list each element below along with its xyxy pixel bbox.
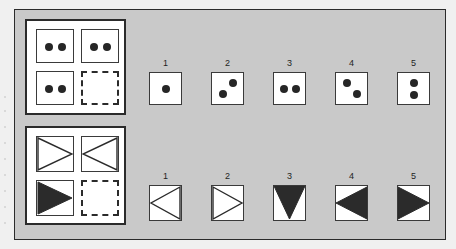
scan-speck: [4, 190, 6, 192]
dot-matrix-stimulus: [25, 19, 126, 115]
option-label-4: 4: [335, 58, 368, 68]
matrix-cell-bottom-right-missing: [81, 71, 119, 105]
dot-option-2[interactable]: [211, 72, 244, 105]
dot-glyph: [410, 79, 418, 87]
triangle-option-4[interactable]: [335, 185, 368, 221]
triangle-left-outline-icon: [150, 186, 181, 220]
scan-speck: [4, 126, 6, 128]
triangle-right-filled-icon: [37, 181, 73, 215]
scan-speck: [4, 142, 6, 144]
matrix-cell-bottom-right-missing: [81, 180, 119, 216]
option-label-3: 3: [273, 58, 306, 68]
dot-glyph: [410, 91, 418, 99]
matrix-cell-top-right: [81, 29, 119, 63]
matrix-cell-top-left: [36, 136, 74, 172]
option-label-2: 2: [211, 171, 244, 181]
scan-speck: [4, 96, 6, 98]
matrix-cell-top-left: [36, 29, 74, 63]
problem-panel: 1 2 3 4 5: [14, 9, 446, 240]
triangle-right-outline-icon: [37, 137, 73, 171]
scan-speck: [4, 222, 6, 224]
dot-option-4[interactable]: [335, 72, 368, 105]
scan-speck: [4, 158, 6, 160]
dot-glyph: [45, 43, 53, 51]
dot-glyph: [353, 90, 361, 98]
dot-glyph: [103, 43, 111, 51]
scan-speck: [4, 206, 6, 208]
matrix-cell-bottom-left: [36, 180, 74, 216]
dot-glyph: [58, 43, 66, 51]
dot-glyph: [162, 85, 170, 93]
option-label-5: 5: [397, 58, 430, 68]
option-label-4: 4: [335, 171, 368, 181]
triangle-option-2[interactable]: [211, 185, 244, 221]
dot-glyph: [219, 90, 227, 98]
option-label-3: 3: [273, 171, 306, 181]
option-label-1: 1: [149, 171, 182, 181]
triangle-down-filled-icon: [274, 186, 305, 220]
matrix-cell-top-right: [81, 136, 119, 172]
dot-glyph: [343, 79, 351, 87]
scan-speck: [4, 174, 6, 176]
dot-option-1[interactable]: [149, 72, 182, 105]
scan-speck: [4, 110, 6, 112]
triangle-option-3[interactable]: [273, 185, 306, 221]
dot-glyph: [45, 85, 53, 93]
dot-glyph: [292, 85, 300, 93]
triangle-left-filled-icon: [336, 186, 367, 220]
page-canvas: 1 2 3 4 5: [0, 0, 456, 249]
option-label-1: 1: [149, 58, 182, 68]
dot-glyph: [229, 79, 237, 87]
triangle-option-1[interactable]: [149, 185, 182, 221]
triangle-right-filled-icon: [398, 186, 429, 220]
dot-glyph: [90, 43, 98, 51]
triangle-left-outline-icon: [82, 137, 118, 171]
matrix-cell-bottom-left: [36, 71, 74, 105]
triangle-right-outline-icon: [212, 186, 243, 220]
option-label-2: 2: [211, 58, 244, 68]
triangle-option-5[interactable]: [397, 185, 430, 221]
dot-option-3[interactable]: [273, 72, 306, 105]
dot-glyph: [58, 85, 66, 93]
dot-option-5[interactable]: [397, 72, 430, 105]
triangle-matrix-stimulus: [25, 126, 126, 225]
dot-glyph: [280, 85, 288, 93]
option-label-5: 5: [397, 171, 430, 181]
